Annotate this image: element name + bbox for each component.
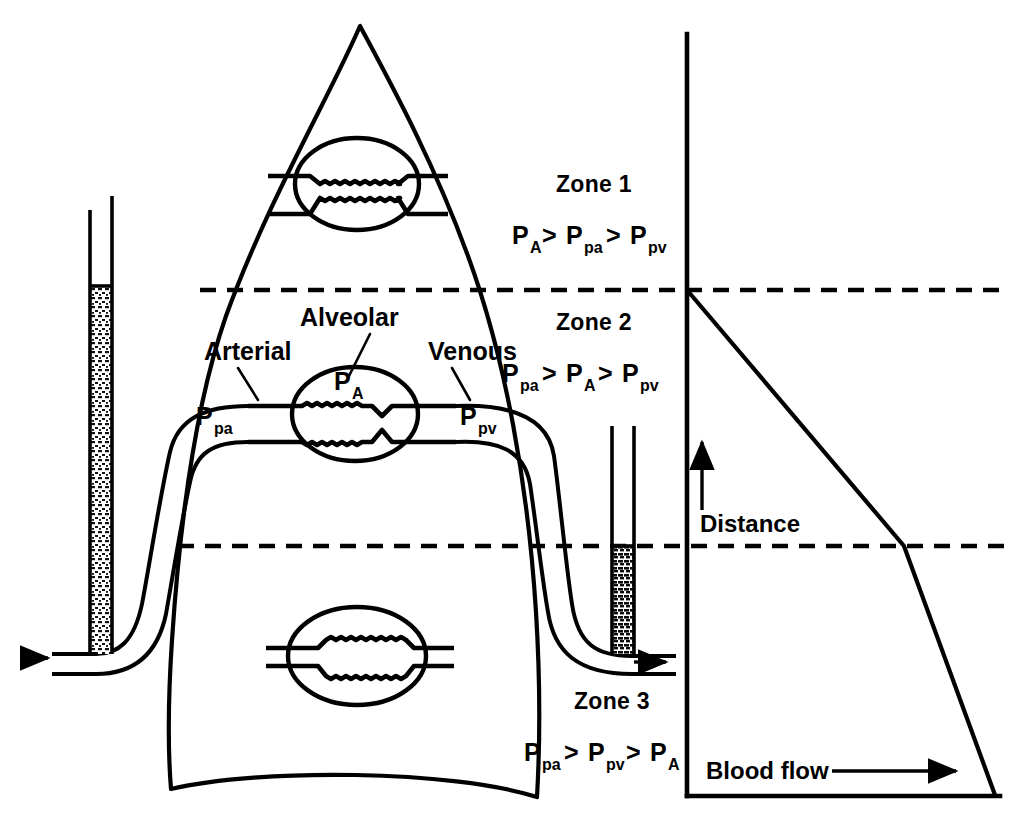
capillary-upper-wall-zone2: [248, 403, 456, 416]
west-zones-figure: Arterial Alveolar Venous P pa P A P pv Z…: [0, 0, 1016, 822]
svg-text:P: P: [630, 221, 647, 249]
svg-text:pv: pv: [606, 756, 625, 773]
svg-text:pa: pa: [214, 420, 233, 437]
svg-text:P: P: [566, 221, 583, 249]
capillary-annotations: Arterial Alveolar Venous P pa P A P pv: [196, 303, 517, 437]
zone3-text-group: Zone 3 P pa > P pv > P A: [524, 688, 680, 773]
svg-text:P: P: [460, 402, 477, 430]
distance-label: Distance: [700, 510, 800, 537]
alveolus-zone3: [288, 607, 426, 705]
capillary-lower-wall-zone1: [268, 198, 448, 214]
svg-text:pa: pa: [542, 756, 561, 773]
flow-graph: Distance Blood flow: [687, 34, 1000, 796]
alveolar-label: Alveolar: [300, 303, 399, 331]
svg-text:>: >: [606, 221, 621, 249]
zone3-label: Zone 3: [574, 688, 650, 714]
svg-text:A: A: [352, 385, 364, 402]
svg-text:A: A: [584, 377, 596, 394]
zone3-capillary-group: [266, 607, 454, 705]
venous-vessel-inner-wall: [456, 442, 632, 674]
outflow-group: [632, 656, 676, 674]
svg-text:>: >: [598, 359, 613, 387]
blood-flow-curve: [687, 290, 995, 795]
svg-text:P: P: [524, 738, 541, 766]
svg-text:>: >: [542, 221, 557, 249]
venous-manometer-fluid: [612, 546, 634, 654]
svg-text:pa: pa: [520, 377, 539, 394]
svg-text:pa: pa: [584, 239, 603, 256]
alveolus-zone2: [292, 367, 418, 461]
zone2-text-group: Zone 2 P pa > P A > P pv: [502, 309, 659, 394]
lung-outline-group: [169, 26, 539, 797]
inflow-group: [20, 654, 96, 674]
zone2-label: Zone 2: [556, 309, 632, 335]
zone1-text-group: Zone 1 P A > P pa > P pv: [512, 171, 667, 256]
svg-text:pv: pv: [478, 420, 497, 437]
svg-text:P: P: [502, 359, 519, 387]
svg-text:>: >: [626, 738, 641, 766]
svg-text:P: P: [566, 359, 583, 387]
svg-text:P: P: [334, 367, 351, 395]
arterial-manometer: [90, 196, 112, 654]
svg-text:pv: pv: [648, 239, 667, 256]
venous-leader-line: [452, 368, 470, 400]
zone2-capillary-group: [248, 367, 456, 461]
figure-canvas: Arterial Alveolar Venous P pa P A P pv Z…: [0, 0, 1016, 822]
arterial-leader-line: [238, 368, 258, 400]
zone3-relation: P pa > P pv > P A: [524, 738, 680, 773]
svg-text:>: >: [542, 359, 557, 387]
alveolar-pressure-symbol: P A: [334, 367, 364, 402]
arterial-manometer-fluid: [90, 286, 112, 654]
svg-text:P: P: [196, 402, 213, 430]
zone2-relation: P pa > P A > P pv: [502, 359, 659, 394]
svg-text:P: P: [588, 738, 605, 766]
zone1-label: Zone 1: [556, 171, 632, 197]
alveolar-leader-line: [348, 334, 370, 378]
svg-text:P: P: [512, 221, 529, 249]
svg-text:A: A: [668, 756, 680, 773]
svg-text:P: P: [622, 359, 639, 387]
lung-outline: [169, 26, 539, 797]
svg-text:P: P: [650, 738, 667, 766]
zone1-capillary-group: [268, 138, 448, 230]
venous-vessel: [456, 406, 632, 674]
capillary-lower-wall-zone2: [248, 430, 456, 445]
svg-text:A: A: [530, 239, 542, 256]
zone1-relation: P A > P pa > P pv: [512, 221, 667, 256]
venous-manometer: [612, 426, 634, 654]
blood-flow-label: Blood flow: [706, 757, 829, 784]
svg-text:pv: pv: [640, 377, 659, 394]
svg-text:>: >: [564, 738, 579, 766]
arterial-label: Arterial: [204, 337, 292, 365]
